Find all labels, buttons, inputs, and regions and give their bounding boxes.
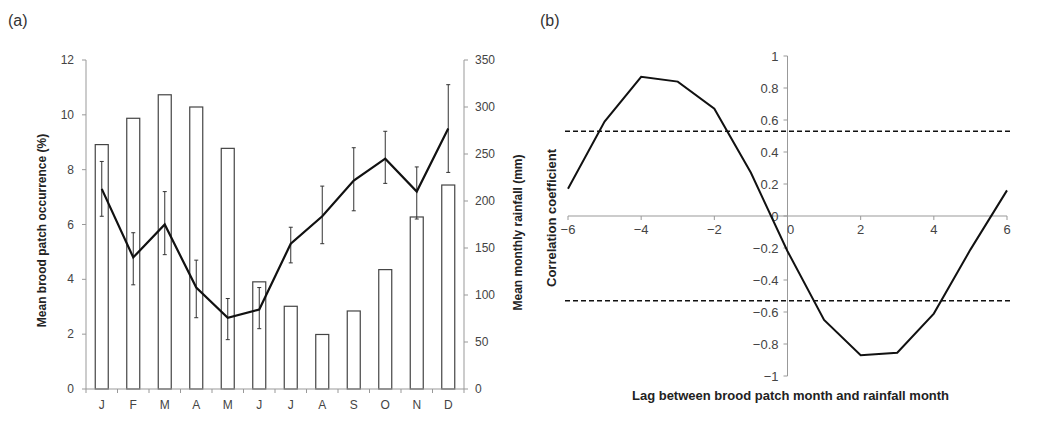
right-tick-label: 350 — [475, 53, 495, 67]
x-axis-title: Lag between brood patch month and rainfa… — [632, 388, 949, 403]
month-label: A — [192, 398, 200, 412]
panel-a-label: (a) — [8, 12, 28, 29]
right-tick-label: 100 — [475, 288, 495, 302]
month-label: S — [350, 398, 358, 412]
month-label: F — [130, 398, 137, 412]
right-tick-label: 300 — [475, 100, 495, 114]
month-label: J — [288, 398, 294, 412]
right-tick-label: 200 — [475, 194, 495, 208]
y-tick-label: 0.4 — [760, 145, 778, 160]
month-label: D — [444, 398, 453, 412]
left-tick-label: 12 — [61, 53, 75, 67]
x-tick-label: 2 — [857, 222, 864, 237]
x-tick-label: 4 — [930, 222, 937, 237]
x-tick-label: −4 — [634, 222, 649, 237]
left-tick-label: 6 — [67, 218, 74, 232]
rainfall-bar — [221, 148, 234, 389]
rainfall-bar — [410, 217, 423, 389]
y-axis-title: Correlation coefficient — [544, 148, 559, 287]
rainfall-bar — [442, 185, 455, 389]
panel-a-chart: (a)024681012050100150200250300350JFMAMJJ… — [8, 12, 525, 412]
month-label: M — [160, 398, 170, 412]
left-y-axis-title: Mean brood patch occurrence (%) — [35, 134, 49, 327]
rainfall-bar — [347, 311, 360, 389]
y-tick-label: 0.8 — [760, 81, 778, 96]
x-tick-label: 6 — [1003, 222, 1010, 237]
rainfall-bar — [284, 306, 297, 389]
y-tick-label: −0.6 — [753, 305, 779, 320]
right-tick-label: 150 — [475, 241, 495, 255]
y-tick-label: 0.2 — [760, 177, 778, 192]
month-label: J — [99, 398, 105, 412]
y-tick-label: −0.2 — [753, 241, 779, 256]
figure: (a)024681012050100150200250300350JFMAMJJ… — [0, 0, 1039, 426]
left-tick-label: 10 — [61, 108, 75, 122]
rainfall-bar — [190, 107, 203, 389]
left-tick-label: 0 — [67, 382, 74, 396]
right-tick-label: 250 — [475, 147, 495, 161]
right-tick-label: 0 — [475, 382, 482, 396]
left-tick-label: 4 — [67, 272, 74, 286]
y-tick-label: −0.8 — [753, 337, 779, 352]
month-label: M — [223, 398, 233, 412]
x-tick-label: 0 — [787, 222, 794, 237]
month-label: A — [318, 398, 326, 412]
x-tick-label: −2 — [707, 222, 722, 237]
y-tick-label: 0.6 — [760, 113, 778, 128]
right-y-axis-title: Mean monthly rainfall (mm) — [511, 154, 525, 310]
x-tick-label: −6 — [561, 222, 576, 237]
rainfall-bar — [316, 334, 329, 389]
y-tick-label: −0.4 — [753, 273, 779, 288]
y-tick-label: −1 — [764, 369, 779, 384]
panel-b-chart: (b)−1−0.8−0.6−0.4−0.200.20.40.60.81−6−4−… — [540, 12, 1011, 403]
month-label: J — [256, 398, 262, 412]
rainfall-bar — [379, 270, 392, 389]
left-tick-label: 8 — [67, 163, 74, 177]
left-tick-label: 2 — [67, 327, 74, 341]
panel-b-label: (b) — [540, 12, 560, 29]
month-label: N — [412, 398, 421, 412]
y-tick-label: 1 — [771, 49, 778, 64]
brood-patch-line — [102, 129, 449, 318]
right-tick-label: 50 — [475, 335, 489, 349]
month-label: O — [381, 398, 390, 412]
